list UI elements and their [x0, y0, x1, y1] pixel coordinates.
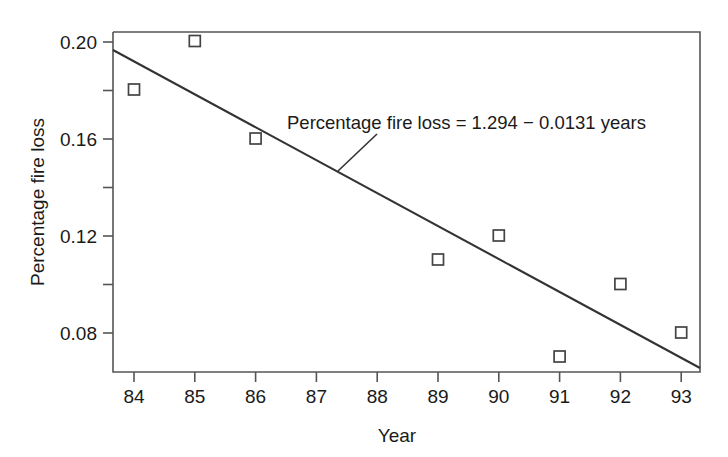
data-points [129, 36, 687, 363]
data-point-92 [615, 279, 626, 290]
regression-equation-annotation: Percentage fire loss = 1.294 − 0.0131 ye… [287, 112, 646, 133]
data-point-89 [433, 254, 444, 265]
x-tick-label-0: 84 [123, 386, 145, 407]
fire-loss-scatter-chart: 0.20 0.16 0.12 0.08 84 85 86 87 88 89 [0, 0, 728, 457]
y-tick-label-2: 0.12 [60, 226, 97, 247]
x-tick-label-8: 92 [610, 386, 631, 407]
x-tick-label-6: 90 [488, 386, 509, 407]
data-point-86 [250, 133, 261, 144]
x-tick-label-7: 91 [549, 386, 570, 407]
y-axis-title: Percentage fire loss [27, 118, 48, 286]
regression-line [113, 50, 700, 368]
chart-canvas: 0.20 0.16 0.12 0.08 84 85 86 87 88 89 [0, 0, 728, 457]
y-axis-ticks [103, 42, 113, 333]
data-point-90 [493, 230, 504, 241]
y-tick-label-0: 0.20 [60, 32, 97, 53]
x-tick-label-5: 89 [427, 386, 448, 407]
data-point-93 [676, 327, 687, 338]
x-axis-title: Year [378, 425, 417, 446]
y-tick-label-3: 0.08 [60, 323, 97, 344]
x-tick-labels: 84 85 86 87 88 89 90 91 92 93 [123, 386, 691, 407]
data-point-84 [129, 84, 140, 95]
x-tick-label-9: 93 [671, 386, 692, 407]
x-tick-label-4: 88 [367, 386, 388, 407]
y-tick-labels: 0.20 0.16 0.12 0.08 [60, 32, 97, 344]
x-axis-ticks [134, 372, 681, 382]
data-point-91 [554, 351, 565, 362]
y-tick-label-1: 0.16 [60, 129, 97, 150]
data-point-85 [189, 36, 200, 47]
x-tick-label-3: 87 [306, 386, 327, 407]
annotation-leader-line [338, 134, 377, 171]
x-tick-label-2: 86 [245, 386, 266, 407]
x-tick-label-1: 85 [184, 386, 205, 407]
